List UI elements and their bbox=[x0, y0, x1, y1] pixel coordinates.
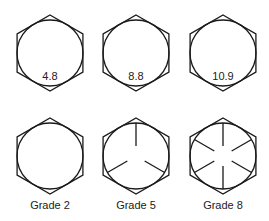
metric-bolt-head: 8.8 bbox=[103, 15, 169, 91]
metric-grade-number: 4.8 bbox=[42, 70, 57, 82]
radial-grade-mark bbox=[194, 161, 214, 173]
radial-grade-mark bbox=[232, 140, 252, 152]
metric-bolt-head: 4.8 bbox=[17, 15, 83, 91]
sae-bolt-head: Grade 8 bbox=[190, 118, 256, 211]
sae-grade-label: Grade 2 bbox=[30, 199, 70, 211]
sae-grade-label: Grade 5 bbox=[116, 199, 156, 211]
bolt-grade-diagram: 4.88.810.9Grade 2Grade 5Grade 8 bbox=[0, 0, 269, 221]
washer-circle bbox=[17, 123, 83, 189]
radial-grade-mark bbox=[145, 161, 165, 173]
hexagon-outline bbox=[17, 118, 83, 194]
sae-bolt-head: Grade 2 bbox=[17, 118, 83, 211]
sae-bolt-head: Grade 5 bbox=[103, 118, 169, 211]
metric-grade-number: 10.9 bbox=[212, 70, 233, 82]
radial-grade-mark bbox=[232, 161, 252, 173]
radial-grade-mark bbox=[107, 161, 127, 173]
radial-grade-mark bbox=[194, 140, 214, 152]
metric-grade-number: 8.8 bbox=[128, 70, 143, 82]
metric-bolt-head: 10.9 bbox=[190, 15, 256, 91]
sae-grade-label: Grade 8 bbox=[203, 199, 243, 211]
